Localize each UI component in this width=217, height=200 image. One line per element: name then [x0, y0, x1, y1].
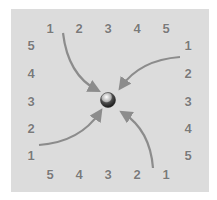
sphere-icon — [101, 93, 116, 108]
arrows-and-sphere — [0, 0, 217, 200]
